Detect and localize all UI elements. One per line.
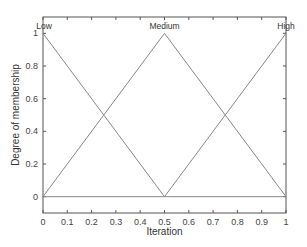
y-tick-label: 0.8 [25, 61, 38, 71]
y-tick-label: 0.6 [25, 94, 38, 104]
plot-frame [43, 17, 286, 213]
y-tick-label: 0.2 [25, 159, 38, 169]
series-line-medium [43, 33, 286, 196]
x-tick-label: 0.9 [255, 217, 268, 227]
membership-chart: 00.10.20.30.40.50.60.70.80.9100.20.40.60… [0, 0, 307, 247]
x-tick-label: 0.3 [110, 217, 123, 227]
x-axis-label: Iteration [146, 226, 182, 237]
x-tick-label: 1 [283, 217, 288, 227]
mf-label-high: High [277, 21, 295, 31]
y-tick-label: 0.4 [25, 126, 38, 136]
mf-label-medium: Medium [149, 21, 179, 31]
y-tick-label: 0 [33, 192, 38, 202]
series-line-low [43, 33, 286, 196]
x-tick-label: 0.6 [183, 217, 196, 227]
mf-label-low: Low [36, 21, 52, 31]
x-tick-label: 0.2 [85, 217, 98, 227]
series-line-high [43, 33, 286, 196]
x-tick-label: 0 [40, 217, 45, 227]
x-tick-label: 0.4 [134, 217, 147, 227]
y-axis-label: Degree of membership [10, 64, 21, 166]
x-tick-label: 0.8 [231, 217, 244, 227]
x-tick-label: 0.1 [61, 217, 74, 227]
x-tick-label: 0.7 [207, 217, 220, 227]
